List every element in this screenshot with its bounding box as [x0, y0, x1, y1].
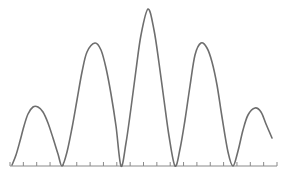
chart-canvas [0, 0, 285, 176]
x-axis [10, 162, 277, 166]
chart-figure [0, 0, 285, 176]
